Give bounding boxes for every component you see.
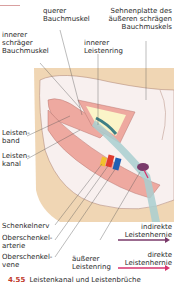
legend-direkte-hernie: direkte Leistenhernie: [125, 251, 172, 267]
label-line: schräger: [2, 39, 49, 47]
label-line: Leistenring: [84, 47, 123, 55]
label-line: Oberschenkel-: [2, 253, 52, 261]
label-sehnenplatte: Sehnenplatte des äußeren schrägen Bauchm…: [109, 7, 172, 31]
label-querer-bauchmuskel: querer Bauchmuskel: [43, 7, 90, 23]
label-aeusserer-leistenring: äußerer Leistenring: [72, 255, 111, 271]
label-line: Leistenhernie: [125, 231, 172, 239]
label-line: arterie: [2, 242, 52, 250]
label-line: Leistenring: [72, 263, 111, 271]
label-line: Sehnenplatte des: [109, 7, 172, 15]
label-innerer-leistenring: innerer Leistenring: [84, 39, 123, 55]
label-schenkelnerv: Schenkelnerv: [2, 222, 49, 230]
label-line: Leisten-: [2, 129, 30, 137]
label-line: Schenkelnerv: [2, 222, 49, 230]
figure-title: Leistenkanal und Leistenbrüche: [30, 276, 141, 284]
label-oberschenkelvene: Oberschenkel- vene: [2, 253, 52, 269]
label-innerer-schraeger-bauchmuskel: innerer schräger Bauchmuskel: [2, 31, 49, 55]
label-leistenkanal: Leisten- kanal: [2, 152, 30, 168]
label-line: äußeren schrägen: [109, 15, 172, 23]
label-line: Bauchmuskels: [109, 23, 172, 31]
label-line: band: [2, 137, 30, 145]
label-line: Leisten-: [2, 152, 30, 160]
label-line: direkte: [125, 251, 172, 259]
legend-indirekte-hernie: indirekte Leistenhernie: [125, 223, 172, 239]
label-line: Leistenhernie: [125, 259, 172, 267]
label-leistenband: Leisten- band: [2, 129, 30, 145]
label-oberschenkelarterie: Oberschenkel- arterie: [2, 234, 52, 250]
label-line: vene: [2, 261, 52, 269]
inguinal-canal-diagram: querer Bauchmuskel Sehnenplatte des äuße…: [0, 0, 174, 286]
label-line: querer: [43, 7, 90, 15]
label-line: innerer: [2, 31, 49, 39]
label-line: kanal: [2, 160, 30, 168]
label-line: Bauchmuskel: [2, 47, 49, 55]
label-line: Oberschenkel-: [2, 234, 52, 242]
figure-caption: 4.55 Leistenkanal und Leistenbrüche: [8, 276, 141, 284]
label-line: indirekte: [125, 223, 172, 231]
label-line: innerer: [84, 39, 123, 47]
figure-number: 4.55: [8, 276, 25, 284]
label-line: Bauchmuskel: [43, 15, 90, 23]
label-line: äußerer: [72, 255, 111, 263]
